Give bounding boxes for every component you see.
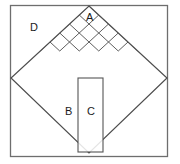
region-label-c: C <box>87 106 95 117</box>
region-label-d: D <box>30 22 38 33</box>
geometry-figure: A D B C <box>0 0 180 164</box>
figure-canvas <box>0 0 180 164</box>
region-label-b: B <box>65 106 72 117</box>
region-label-a: A <box>86 12 93 23</box>
